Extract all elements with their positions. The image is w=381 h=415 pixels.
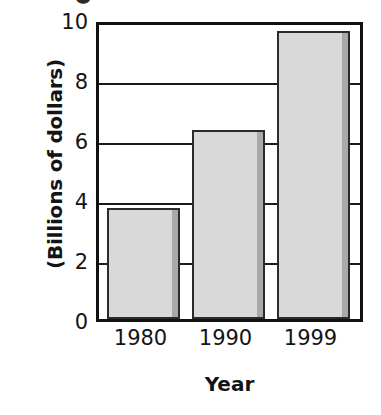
bar-1980 xyxy=(107,208,180,319)
y-tick-label: 8 xyxy=(54,72,88,93)
x-axis-tick-labels: 1980 1990 1999 xyxy=(96,328,363,360)
bar-1990 xyxy=(192,130,265,319)
y-tick-label: 4 xyxy=(54,192,88,213)
x-axis-title: Year xyxy=(96,372,363,396)
x-tick-label-1990: 1990 xyxy=(181,328,270,349)
x-tick-label-1980: 1980 xyxy=(96,328,185,349)
x-tick-label-1999: 1999 xyxy=(266,328,355,349)
y-tick-label: 2 xyxy=(54,252,88,273)
y-tick-label: 0 xyxy=(54,312,88,333)
bar-chart-figure: ● (Billions of dollars) 10 8 6 4 2 0 198… xyxy=(0,0,381,415)
y-axis-tick-labels: 10 8 6 4 2 0 xyxy=(52,0,88,415)
plot-inner xyxy=(99,25,360,319)
bar-1999 xyxy=(277,31,350,319)
plot-area xyxy=(96,22,363,322)
y-tick-label: 6 xyxy=(54,132,88,153)
y-tick-label: 10 xyxy=(54,12,88,33)
